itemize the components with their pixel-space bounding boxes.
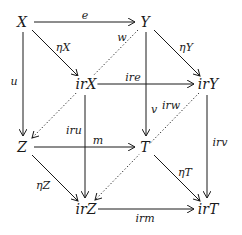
arrow-eta-y: [154, 30, 200, 76]
label-v: v: [151, 103, 157, 116]
label-irm: irm: [135, 212, 154, 225]
node-x: X: [17, 14, 27, 30]
label-eta-t: ηT: [178, 166, 192, 179]
node-irx: irX: [74, 76, 97, 92]
label-eta-x: ηX: [56, 41, 70, 54]
node-t: T: [139, 139, 150, 155]
label-ire: ire: [125, 71, 140, 84]
label-u: u: [10, 75, 17, 88]
node-z: Z: [17, 139, 27, 155]
label-eta-y: ηY: [179, 41, 193, 54]
node-iry: irY: [198, 76, 218, 92]
label-iru: iru: [66, 124, 82, 137]
arrow-eta-t: [154, 155, 200, 201]
label-irw: irw: [162, 99, 180, 112]
label-m: m: [93, 134, 103, 147]
node-irz: irZ: [76, 201, 97, 217]
node-y: Y: [140, 14, 149, 30]
node-irt: irT: [198, 201, 219, 217]
label-w: w: [117, 31, 126, 44]
label-eta-z: ηZ: [36, 179, 50, 192]
label-irv: irv: [213, 136, 228, 149]
label-e: e: [82, 9, 89, 22]
